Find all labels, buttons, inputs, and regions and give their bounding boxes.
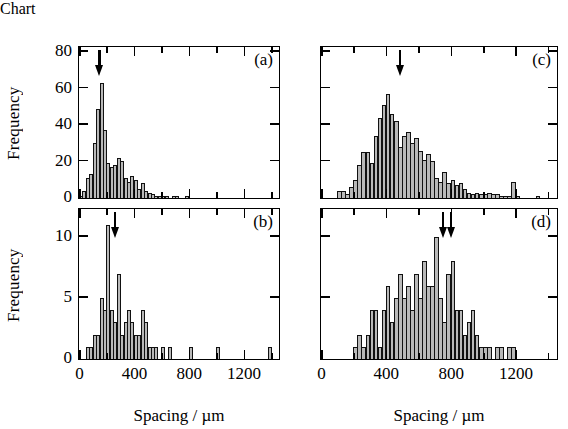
x-axis-tick (321, 350, 323, 359)
y-axis-tick (321, 87, 330, 89)
x-axis-tick (515, 189, 517, 198)
y-axis-tick-label: 0 (64, 348, 73, 368)
x-axis-tick-label: 800 (438, 364, 464, 384)
x-axis-tick (353, 47, 355, 53)
x-axis-tick (189, 209, 191, 218)
y-axis-tick (270, 123, 279, 125)
x-axis-tick (161, 47, 163, 53)
x-axis-tick (216, 209, 218, 215)
x-axis-tick (418, 353, 420, 359)
y-axis-title-top-left: Frequency (4, 48, 24, 198)
y-axis-tick (270, 235, 279, 237)
mean-marker-arrow-icon (95, 50, 104, 76)
x-axis-tick (161, 192, 163, 198)
y-axis-tick (79, 235, 88, 237)
x-axis-tick (483, 192, 485, 198)
y-axis-tick-label: 60 (55, 78, 72, 98)
x-axis-tick (353, 209, 355, 215)
panel-label-a: (a) (254, 51, 273, 68)
histogram-bar (154, 347, 158, 359)
y-axis-tick (321, 50, 330, 52)
x-axis-tick (271, 353, 273, 359)
histogram-figure: Frequency Frequency Spacing / µm Spacing… (0, 18, 568, 429)
x-axis-tick (216, 192, 218, 198)
x-axis-tick (386, 209, 388, 218)
x-axis-tick (515, 350, 517, 359)
x-axis-tick (451, 350, 453, 359)
x-axis-tick (451, 47, 453, 56)
x-axis-tick (548, 192, 550, 198)
x-axis-tick (134, 350, 136, 359)
x-axis-tick (244, 189, 246, 198)
y-axis-tick (79, 123, 88, 125)
x-axis-tick-labels-b: 04008001200 (78, 364, 280, 386)
x-axis-tick (106, 192, 108, 198)
mean-marker-arrow-icon (111, 212, 120, 238)
y-axis-tick-label: 40 (55, 114, 72, 134)
panel-label-c: (c) (532, 51, 551, 68)
y-axis-tick (548, 123, 557, 125)
x-axis-title-right-column: Spacing / µm (320, 406, 558, 426)
plot-area-c (321, 47, 557, 198)
x-axis-tick (216, 47, 218, 53)
x-axis-tick (79, 209, 81, 218)
y-axis-tick (548, 235, 557, 237)
x-axis-tick (271, 192, 273, 198)
histogram-panel-c: (c) (320, 46, 558, 199)
x-axis-tick (483, 209, 485, 215)
y-axis-tick (270, 87, 279, 89)
y-axis-tick (548, 296, 557, 298)
x-axis-tick (321, 209, 323, 218)
histogram-bar (175, 196, 179, 198)
x-axis-tick (189, 350, 191, 359)
histogram-bar (487, 347, 492, 359)
y-axis-tick (548, 160, 557, 162)
y-axis-tick (270, 296, 279, 298)
x-axis-tick (134, 47, 136, 56)
x-axis-tick (483, 353, 485, 359)
x-axis-tick-label: 0 (317, 364, 326, 384)
x-axis-tick (515, 47, 517, 56)
y-axis-tick (79, 87, 88, 89)
x-axis-tick (244, 47, 246, 56)
mean-marker-arrow-icon (447, 212, 456, 238)
x-axis-tick (386, 47, 388, 56)
plot-area-b (79, 209, 279, 359)
histogram-bar (165, 196, 169, 198)
y-axis-tick-labels-b: 0510 (30, 208, 72, 360)
y-axis-tick (321, 296, 330, 298)
y-axis-tick (321, 123, 330, 125)
x-axis-tick (418, 192, 420, 198)
x-axis-tick (386, 350, 388, 359)
x-axis-tick (106, 209, 108, 215)
y-axis-tick (321, 235, 330, 237)
x-axis-tick (79, 189, 81, 198)
x-axis-tick (386, 189, 388, 198)
y-axis-tick (79, 160, 88, 162)
x-axis-tick (418, 47, 420, 53)
panel-label-d: (d) (531, 213, 551, 230)
y-axis-tick (321, 160, 330, 162)
x-axis-tick (321, 189, 323, 198)
y-axis-tick (79, 50, 88, 52)
x-axis-tick (79, 350, 81, 359)
x-axis-tick (189, 189, 191, 198)
x-axis-tick (161, 209, 163, 215)
x-axis-tick (418, 209, 420, 215)
x-axis-tick (106, 47, 108, 53)
y-axis-tick-label: 10 (55, 226, 72, 246)
x-axis-tick (189, 47, 191, 56)
x-axis-tick-label: 1200 (227, 364, 261, 384)
x-axis-tick-label: 400 (374, 364, 400, 384)
x-axis-tick (244, 350, 246, 359)
histogram-panel-a: (a) (78, 46, 280, 199)
histogram-panel-d: (d) (320, 208, 558, 360)
plot-area-a (79, 47, 279, 198)
histogram-bar (499, 347, 504, 359)
y-axis-tick-label: 5 (64, 287, 73, 307)
y-axis-tick (79, 296, 88, 298)
x-axis-tick-label: 0 (75, 364, 84, 384)
x-axis-tick (451, 189, 453, 198)
x-axis-tick (134, 189, 136, 198)
histogram-panel-b: (b) (78, 208, 280, 360)
